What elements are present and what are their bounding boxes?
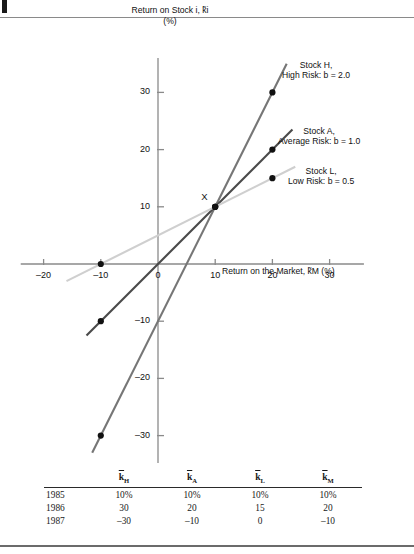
cell-ka: –10 [158, 514, 226, 527]
header-ka: kA [158, 470, 226, 487]
table-row: 198510%10%10%10% [44, 487, 362, 501]
cell-km: 20 [294, 501, 362, 514]
x-tick-label-0: 0 [143, 270, 173, 280]
cell-ka: 20 [158, 501, 226, 514]
header-kh: kH [90, 470, 158, 487]
series-1-point-2 [269, 147, 275, 153]
y-axis-title: Return on Stock i, k̃i (%) [105, 5, 235, 26]
series-0-point-2 [269, 89, 275, 95]
chart-plot-area: –20–100102030–30–20–10102030XStock H,Hig… [0, 18, 414, 463]
cell-kh: 30 [90, 501, 158, 514]
cell-year: 1987 [44, 514, 90, 527]
bottom-divider [0, 545, 414, 547]
y-tick-label-20: 20 [124, 144, 150, 154]
series-1-point-0 [98, 318, 104, 324]
series-0-point-0 [98, 433, 104, 439]
cell-km: 10% [294, 487, 362, 501]
series-label-low: Stock L,Low Risk: b = 0.5 [288, 166, 354, 187]
series-2-point-1 [212, 204, 218, 210]
cell-ka: 10% [158, 487, 226, 501]
y-tick-label--20: –20 [124, 372, 150, 382]
table-row: 1987–30–100–10 [44, 514, 362, 527]
table-row: 198630201520 [44, 501, 362, 514]
y-tick-label-30: 30 [124, 86, 150, 96]
y-tick-label--30: –30 [124, 430, 150, 440]
intersection-label-x: X [201, 191, 207, 202]
y-tick-label-10: 10 [124, 201, 150, 211]
series-label-low-line2: Low Risk: b = 0.5 [288, 176, 354, 186]
table-header-row: kH kA kL kM [44, 470, 362, 487]
header-year [44, 470, 90, 487]
series-label-high-line1: Stock H, [282, 60, 350, 70]
series-2-point-0 [98, 261, 104, 267]
y-axis-title-line2: (%) [163, 16, 176, 26]
x-tick-label--10: –10 [86, 270, 116, 280]
series-label-average-line1: Stock A, [278, 126, 360, 136]
series-label-high: Stock H,High Risk: b = 2.0 [282, 60, 350, 81]
y-tick-label--10: –10 [124, 315, 150, 325]
series-label-average: Stock A,Average Risk: b = 1.0 [278, 126, 360, 147]
page-corner-artifact [2, 0, 7, 13]
cell-kl: 15 [226, 501, 294, 514]
header-km: kM [294, 470, 362, 487]
series-label-low-line1: Stock L, [288, 166, 354, 176]
series-label-average-line2: Average Risk: b = 1.0 [278, 136, 360, 146]
series-line-0 [92, 64, 286, 453]
series-2-point-2 [269, 175, 275, 181]
x-tick-label--20: –20 [29, 270, 59, 280]
x-axis-title: Return on the Market, k̃M (%) [222, 266, 335, 277]
cell-kh: 10% [90, 487, 158, 501]
header-kl: kL [226, 470, 294, 487]
cell-year: 1986 [44, 501, 90, 514]
returns-table: kH kA kL kM 198510%10%10%10%198630201520… [44, 470, 362, 527]
cell-kl: 0 [226, 514, 294, 527]
y-axis-title-line1: Return on Stock i, k̃i [132, 5, 209, 15]
cell-km: –10 [294, 514, 362, 527]
cell-kl: 10% [226, 487, 294, 501]
series-line-1 [87, 130, 293, 336]
cell-year: 1985 [44, 487, 90, 501]
chart-svg [0, 18, 414, 463]
series-label-high-line2: High Risk: b = 2.0 [282, 70, 350, 80]
cell-kh: –30 [90, 514, 158, 527]
